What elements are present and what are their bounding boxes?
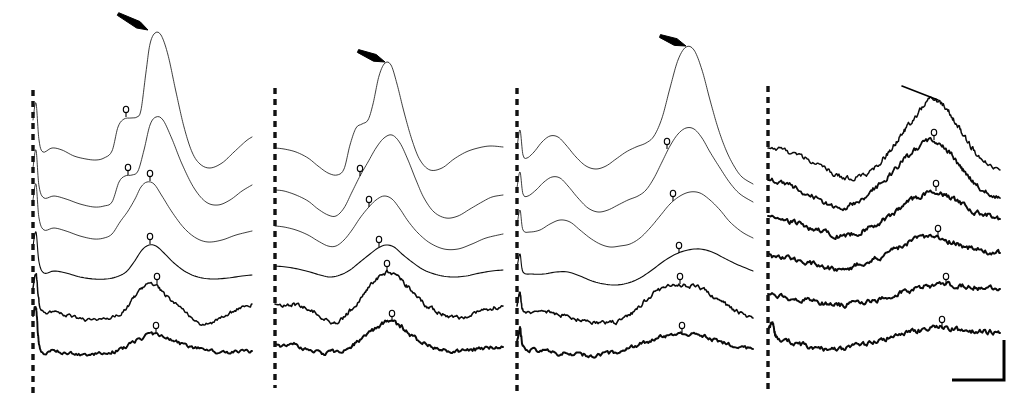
trace-figure [0,0,1027,409]
figure-background [0,0,1027,409]
marker-ring [677,273,682,279]
marker-ring [147,170,152,176]
marker-ring [147,233,152,239]
marker-ring [664,138,669,144]
marker-ring [679,322,684,328]
marker-ring [125,164,130,170]
marker-ring [366,196,371,202]
marker-ring [943,273,948,279]
marker-ring [670,190,675,196]
marker-ring [939,316,944,322]
marker-ring [676,242,681,248]
marker-ring [935,225,940,231]
trace-figure-canvas [0,0,1027,409]
marker-ring [357,165,362,171]
marker-ring [123,106,128,112]
marker-ring [933,180,938,186]
marker-ring [376,236,381,242]
marker-ring [389,310,394,316]
marker-ring [153,322,158,328]
marker-ring [154,273,159,279]
marker-ring [384,260,389,266]
marker-ring [931,129,936,135]
